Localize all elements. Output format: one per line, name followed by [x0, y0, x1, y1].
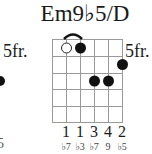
open-dot-string-2	[62, 43, 72, 53]
finger-label: 1	[62, 124, 70, 140]
finger-dot-string-5	[103, 76, 114, 87]
finger-dot-string-3	[75, 43, 86, 54]
interval-label: ♭7	[61, 142, 71, 152]
interval-label: ♭7	[89, 142, 99, 152]
finger-label: 3	[90, 124, 98, 140]
finger-dot-string-6	[117, 59, 128, 70]
interval-label: ♭5	[117, 142, 127, 152]
finger-label: 4	[104, 124, 112, 140]
finger-label: 2	[118, 124, 126, 140]
finger-dot-string-4	[89, 76, 100, 87]
finger-label: 1	[76, 124, 84, 140]
interval-label: 9	[106, 142, 111, 152]
barre-arc-icon	[64, 35, 82, 40]
interval-label: ♭3	[75, 142, 85, 152]
